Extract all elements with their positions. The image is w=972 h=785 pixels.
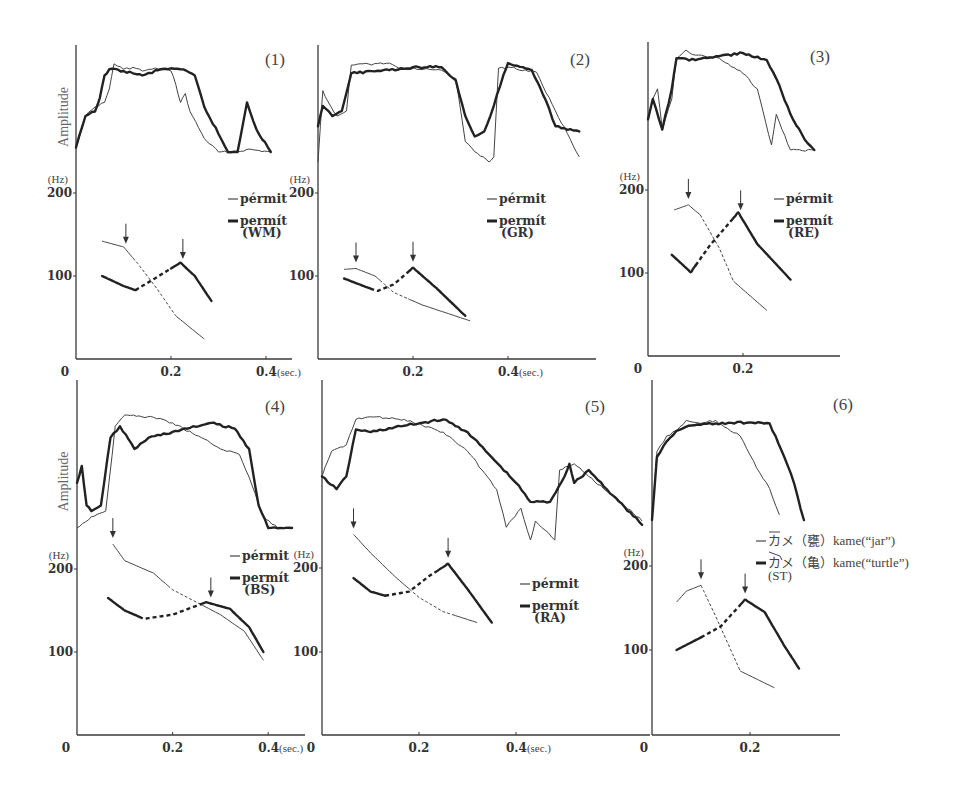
pitch-contour-thin	[677, 585, 702, 602]
y-tick-label: 100	[48, 645, 73, 659]
y-tick-label: 200	[619, 183, 644, 197]
legend-label: pérmit	[532, 576, 579, 591]
pitch-contour-thin	[453, 615, 477, 623]
legend-speaker-label: (WM)	[242, 225, 282, 240]
pitch-contour-thick-interpolated	[135, 269, 171, 291]
x-tick-value: 0.4	[258, 741, 279, 755]
arrowhead-icon	[353, 256, 359, 263]
legend-label: カメ（甕）kame(“jar”)	[768, 533, 895, 548]
pitch-contour-thick	[344, 279, 370, 289]
arrowhead-icon	[685, 192, 691, 199]
y-tick-label: 100	[293, 645, 318, 659]
legend-label: pérmit	[240, 191, 287, 206]
arrowhead-icon	[180, 252, 186, 259]
pitch-contour-thin	[201, 605, 263, 661]
y-tick-label: 100	[47, 269, 72, 283]
x-tick-label: 0	[307, 741, 315, 755]
arrowhead-icon	[123, 237, 129, 244]
legend-speaker-label: (ST)	[768, 568, 792, 583]
panel-2: (2)200100(Hz)0.20.4(sec.)pérmitpermít(GR…	[289, 45, 596, 379]
amplitude-trace-thick	[652, 422, 804, 520]
amplitude-trace-thin	[322, 417, 642, 540]
pitch-contour-thick	[171, 263, 211, 301]
arrowhead-icon	[351, 521, 357, 528]
pitch-contour-thick	[102, 276, 135, 290]
x-unit-label: (sec.)	[527, 742, 551, 755]
amplitude-trace-thin	[318, 63, 579, 162]
arrowhead-icon	[445, 551, 451, 558]
arrowhead-icon	[742, 587, 748, 594]
pitch-contour-thin	[344, 268, 380, 280]
pitch-contour-thin	[674, 205, 700, 215]
legend: pérmitpermít(BS)	[230, 548, 289, 597]
x-unit-label: (sec.)	[279, 742, 303, 755]
y-tick-label: 200	[293, 561, 318, 575]
y-tick-label: 200	[289, 186, 314, 200]
pitch-contour-thick-interpolated	[696, 218, 734, 266]
panel-6: (6)200100(Hz)00.2カメ（甕）kame(“jar”)カメ（亀）ka…	[623, 380, 909, 755]
pitch-contour-thin-interpolated	[701, 585, 740, 671]
panel-number: (5)	[585, 397, 605, 416]
pitch-contour-thin	[408, 299, 470, 321]
pitch-contour-thick	[354, 578, 386, 596]
panel-number: (2)	[570, 50, 590, 69]
pitch-contour-thick	[672, 255, 696, 273]
panel-number: (3)	[810, 47, 830, 66]
y-tick-label: 200	[623, 559, 648, 573]
pitch-contour-thin	[176, 316, 205, 339]
arrowhead-icon	[738, 203, 744, 210]
arrowhead-icon	[110, 531, 116, 538]
pitch-contour-thick	[438, 564, 491, 623]
legend-speaker-label: (GR)	[501, 225, 534, 240]
panel-number: (1)	[265, 50, 285, 69]
legend: pérmitpermít(RE)	[774, 191, 833, 240]
x-tick-label: 0	[61, 365, 69, 379]
legend: pérmitpermít(GR)	[487, 191, 546, 240]
amplitude-axis-label: Amplitude	[56, 452, 71, 512]
x-tick-label: 0	[640, 741, 648, 755]
legend: pérmitpermít(WM)	[228, 191, 287, 240]
pitch-contour-thin-interpolated	[168, 586, 202, 605]
panel-number: (4)	[265, 397, 285, 416]
x-unit-label: (sec.)	[277, 366, 301, 379]
legend-speaker-label: (RE)	[788, 225, 820, 240]
x-tick-label: 0	[634, 362, 642, 376]
legend: pérmitpermít(RA)	[520, 576, 579, 625]
y-tick-label: 200	[47, 186, 72, 200]
pitch-contour-thick-interpolated	[139, 604, 201, 619]
x-unit-label: (sec.)	[519, 366, 543, 379]
x-tick-label: 0.2	[403, 365, 424, 379]
amplitude-trace-thick	[322, 419, 642, 524]
amplitude-trace-thick	[318, 63, 579, 136]
amplitude-axis-label: Amplitude	[56, 87, 71, 147]
pitch-contour-thin	[113, 544, 168, 586]
legend-label: pérmit	[499, 191, 546, 206]
x-tick-value: 0.4	[256, 365, 277, 379]
y-tick-label: 100	[289, 269, 314, 283]
legend-speaker-label: (BS)	[244, 582, 275, 597]
y-tick-label: 200	[48, 562, 73, 576]
panel-1: (1)Amplitude200100(Hz)00.20.4(sec.)pérmi…	[47, 45, 301, 379]
y-unit-label: (Hz)	[49, 549, 69, 562]
pitch-contour-thin	[354, 534, 410, 589]
amplitude-trace-thin	[77, 415, 292, 529]
x-tick-label: 0.2	[740, 741, 761, 755]
x-tick-value: 0.4	[498, 365, 519, 379]
y-tick-label: 100	[623, 643, 648, 657]
panel-3: (3)200100(Hz)00.2pérmitpermít(RE)	[619, 42, 840, 376]
arrowhead-icon	[698, 572, 704, 579]
x-tick-label: 0.4(sec.)	[506, 741, 551, 755]
y-unit-label: (Hz)	[620, 170, 640, 183]
y-unit-label: (Hz)	[48, 173, 68, 186]
legend-speaker-label: (RA)	[534, 610, 566, 625]
arrowhead-icon	[208, 591, 214, 598]
amplitude-trace-thin	[652, 420, 779, 520]
panel-4: (4)Amplitude200100(Hz)00.20.4(sec.)pérmi…	[48, 380, 305, 755]
pitch-contour-thin-interpolated	[133, 258, 176, 316]
panel-number: (6)	[833, 395, 853, 414]
pitch-contour-thick	[740, 600, 799, 669]
legend-label: pérmit	[242, 548, 289, 563]
pitch-contour-thick	[108, 598, 139, 617]
panel-5: (5)200100(Hz)00.20.4(sec.)pérmitpermít(R…	[293, 380, 650, 755]
pitch-contour-thick-interpolated	[701, 605, 740, 637]
